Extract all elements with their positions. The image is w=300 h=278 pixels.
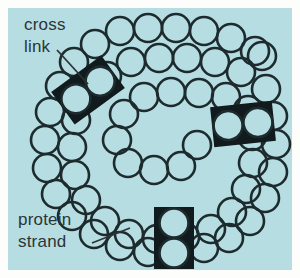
protein-crosslink-diagram: cross link protein strand [0, 0, 300, 278]
protein-strand-label-line1: protein [18, 210, 71, 229]
cross-link-label-line1: cross [24, 15, 66, 34]
crosslink-bottom [154, 207, 194, 269]
crosslink-right [210, 101, 276, 147]
protein-strand-label-line2: strand [18, 232, 66, 251]
figure-root: cross link protein strand [0, 0, 300, 278]
cross-link-label-line2: link [24, 37, 51, 56]
